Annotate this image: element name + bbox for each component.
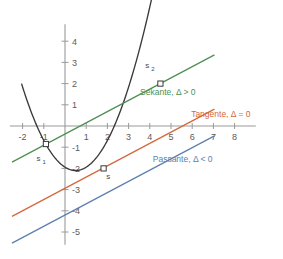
point-s2: s2 <box>145 61 163 86</box>
passante-label: Passante, Δ < 0 <box>153 154 213 164</box>
y-tick-label-1: 1 <box>72 100 77 110</box>
x-tick-label-6: 6 <box>190 132 195 142</box>
sekante-label: Sekante, Δ > 0 <box>140 87 196 97</box>
point-marker-s <box>101 166 106 171</box>
line-sekante <box>12 55 214 162</box>
x-tick-label-8: 8 <box>232 132 237 142</box>
point-s1: s1 <box>37 141 49 164</box>
point-marker-s2 <box>158 81 163 86</box>
point-label-s1: s <box>37 154 41 163</box>
x-tick-label--2: -2 <box>19 132 27 142</box>
y-tick-label-2: 2 <box>72 79 77 89</box>
y-tick-label--5: -5 <box>72 227 80 237</box>
x-tick-label-1: 1 <box>84 132 89 142</box>
y-tick-label--2: -2 <box>72 164 80 174</box>
x-tick-label-3: 3 <box>126 132 131 142</box>
plot-canvas: -2-1123456784321-1-2-3-4-5Sekante, Δ > 0… <box>0 0 283 259</box>
x-tick-label-4: 4 <box>147 132 152 142</box>
point-s: s <box>101 166 110 182</box>
point-label-sub-s2: 2 <box>151 66 155 72</box>
y-tick-label-3: 3 <box>72 58 77 68</box>
y-tick-label--3: -3 <box>72 185 80 195</box>
point-label-s2: s <box>145 61 149 70</box>
point-label-sub-s1: 1 <box>43 159 47 165</box>
discriminant-parabola-figure: -2-1123456784321-1-2-3-4-5Sekante, Δ > 0… <box>0 0 283 259</box>
point-marker-s1 <box>43 141 48 146</box>
y-tick-label-4: 4 <box>72 37 77 47</box>
point-label-s: s <box>106 172 110 181</box>
line-passante <box>12 136 214 243</box>
y-tick-label--1: -1 <box>72 143 80 153</box>
tangente-label: Tangente, Δ = 0 <box>191 109 251 119</box>
